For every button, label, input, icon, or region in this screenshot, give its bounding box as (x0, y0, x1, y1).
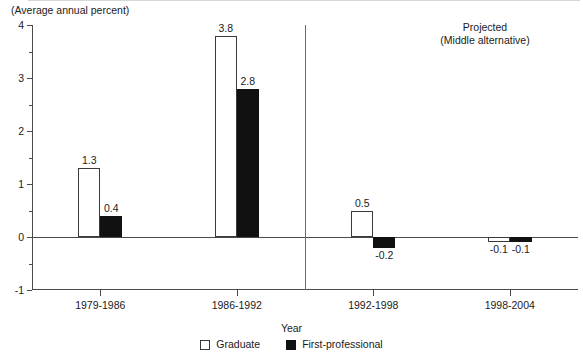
y-axis-line (32, 25, 33, 290)
y-axis-tick (27, 290, 32, 291)
bar-graduate-1979-1986 (78, 168, 100, 237)
y-axis-tick (27, 78, 32, 79)
white-square-icon (200, 340, 210, 350)
bar-value-label: 2.8 (240, 76, 255, 87)
bar-value-label: -0.1 (512, 244, 530, 255)
y-axis-tick (27, 131, 32, 132)
bar-value-label: 0.5 (355, 198, 370, 209)
y-axis-label: 1 (18, 179, 24, 190)
bar-value-label: -0.1 (490, 244, 508, 255)
x-axis-label: 1986-1992 (212, 300, 262, 311)
x-axis-label: 1979-1986 (75, 300, 125, 311)
plot-area: 43210-11979-19861.30.41986-19923.82.8199… (32, 25, 578, 290)
y-axis-minor-tick (29, 211, 32, 212)
legend-item-graduate: Graduate (200, 339, 260, 350)
y-axis-tick (27, 184, 32, 185)
x-axis-tick (237, 290, 238, 296)
y-axis-minor-tick (29, 52, 32, 53)
y-axis-label: 3 (18, 73, 24, 84)
bar-value-label: 1.3 (82, 155, 97, 166)
bar-value-label: -0.2 (375, 250, 393, 261)
x-axis-label: 1992-1998 (348, 300, 398, 311)
x-axis-label: 1998-2004 (485, 300, 535, 311)
unit-note: (Average annual percent) (11, 4, 129, 16)
projection-divider-line (305, 25, 306, 290)
y-axis-minor-tick (29, 264, 32, 265)
y-axis-label: 0 (18, 232, 24, 243)
bar-value-label: 0.4 (104, 203, 119, 214)
bar-graduate-1992-1998 (351, 211, 373, 238)
bar-first-professional-1979-1986 (100, 216, 122, 237)
y-axis-label: -1 (15, 285, 24, 296)
y-axis-tick (27, 25, 32, 26)
bar-value-label: 3.8 (218, 23, 233, 34)
legend-label-first-professional: First-professional (302, 339, 383, 350)
x-axis-tick (100, 290, 101, 296)
x-axis-title: Year (0, 322, 583, 334)
y-axis-minor-tick (29, 158, 32, 159)
x-axis-tick (510, 290, 511, 296)
bar-chart: (Average annual percent) Projected (Midd… (0, 0, 583, 357)
legend-item-first-professional: First-professional (286, 339, 383, 350)
x-axis-tick (373, 290, 374, 296)
y-axis-label: 4 (18, 20, 24, 31)
bar-graduate-1986-1992 (215, 36, 237, 237)
chart-legend: Graduate First-professional (0, 339, 583, 350)
bar-first-professional-1986-1992 (237, 89, 259, 237)
black-square-icon (286, 340, 296, 350)
page-top-rule (28, 0, 580, 1)
bar-first-professional-1998-2004 (510, 237, 532, 242)
y-axis-label: 2 (18, 126, 24, 137)
y-axis-tick (27, 237, 32, 238)
legend-label-graduate: Graduate (216, 339, 260, 350)
y-axis-minor-tick (29, 105, 32, 106)
bar-first-professional-1992-1998 (373, 237, 395, 248)
bar-graduate-1998-2004 (488, 237, 510, 242)
